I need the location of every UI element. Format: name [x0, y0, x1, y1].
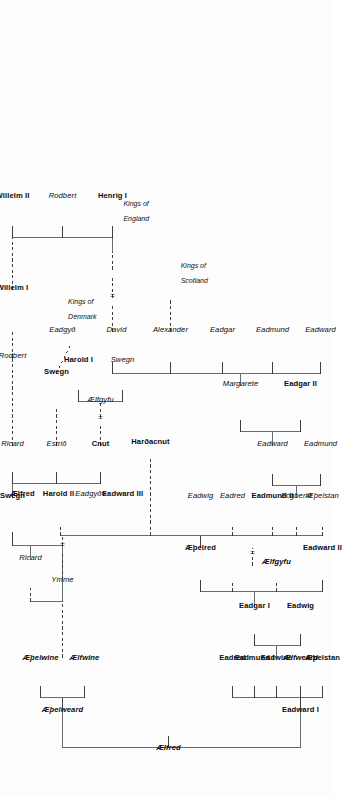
node-eadmund-5[interactable]: Eadmund: [255, 324, 288, 333]
marriage-symbol-aelfgyfu-aethelred: =: [250, 547, 255, 556]
node-eadward-iii[interactable]: Eadward III: [101, 488, 142, 497]
annotation-kings-of-scotland: Kings of Scotland: [165, 254, 208, 293]
node-eadgar-i[interactable]: Eadgar I: [239, 600, 270, 609]
annotation-kings-of-denmark: Kings of Denmark: [52, 290, 96, 329]
node-aelfred[interactable]: Ælfred: [156, 742, 181, 751]
node-willelm-i[interactable]: Willelm I: [0, 282, 28, 291]
node-rodbert-1[interactable]: Rodbert: [0, 350, 26, 359]
marriage-symbol-eadgyth-henrig: =: [110, 290, 115, 299]
node-ricard-1[interactable]: Ricard: [19, 552, 42, 561]
node-ricard-2[interactable]: Ricard: [1, 438, 24, 447]
node-eadward-4[interactable]: Eadward: [257, 438, 288, 447]
marriage-symbol-cnut-aelfgyfu: =: [98, 412, 103, 421]
node-aethelweard[interactable]: Æþelweard: [41, 704, 82, 713]
node-estrid[interactable]: Estrið: [46, 438, 66, 447]
node-harthacnut[interactable]: Harðacnut: [131, 436, 169, 445]
node-aelfgyfu-2[interactable]: Ælfgyfu: [87, 394, 113, 403]
node-eadred[interactable]: Eadred: [219, 652, 245, 661]
node-eadwig-1[interactable]: Eadwig: [286, 600, 313, 609]
node-aethelwine[interactable]: Æþelwine: [22, 652, 58, 661]
node-swegn-3[interactable]: Swegn: [110, 354, 134, 363]
node-ymme[interactable]: Ymme: [51, 574, 73, 583]
node-eadmund-3[interactable]: Eadmund: [303, 438, 336, 447]
node-eadred-2[interactable]: Eadred: [219, 490, 244, 499]
node-harold-i[interactable]: Harold I: [63, 354, 92, 363]
node-willelm-ii[interactable]: Willelm II: [0, 190, 29, 199]
node-eadmund-ii[interactable]: Eadmund II: [251, 490, 293, 499]
node-swegn-2[interactable]: Swegn: [44, 366, 69, 375]
node-eadward-i[interactable]: Eadward I: [282, 704, 319, 713]
node-rodbert-2[interactable]: Rodbert: [48, 190, 76, 199]
node-eadgar-ii[interactable]: Eadgar II: [284, 378, 317, 387]
node-aethelred[interactable]: Æþelred: [184, 542, 215, 551]
node-eadgyth-1[interactable]: Eadgyð: [75, 488, 101, 497]
node-eadward-ii[interactable]: Eadward II: [303, 542, 342, 551]
node-eadward-5[interactable]: Eadward: [305, 324, 336, 333]
node-alexander[interactable]: Alexander: [152, 324, 187, 333]
marriage-symbol-ymme: =: [60, 539, 65, 548]
node-eadwig-2[interactable]: Eadwig: [187, 490, 213, 499]
node-aelfwine[interactable]: Ælfwine: [69, 652, 99, 661]
node-eadgar-5[interactable]: Eadgar: [209, 324, 234, 333]
node-margarete[interactable]: Margarete: [222, 378, 258, 387]
annotation-kings-of-england: Kings of England: [107, 192, 148, 231]
node-harold-ii[interactable]: Harold II: [42, 488, 73, 497]
node-david[interactable]: David: [106, 324, 126, 333]
node-aelfgyfu[interactable]: Ælfgyfu: [262, 556, 291, 565]
node-cnut[interactable]: Cnut: [91, 438, 109, 447]
node-swegn-1[interactable]: Swegn: [0, 490, 24, 499]
